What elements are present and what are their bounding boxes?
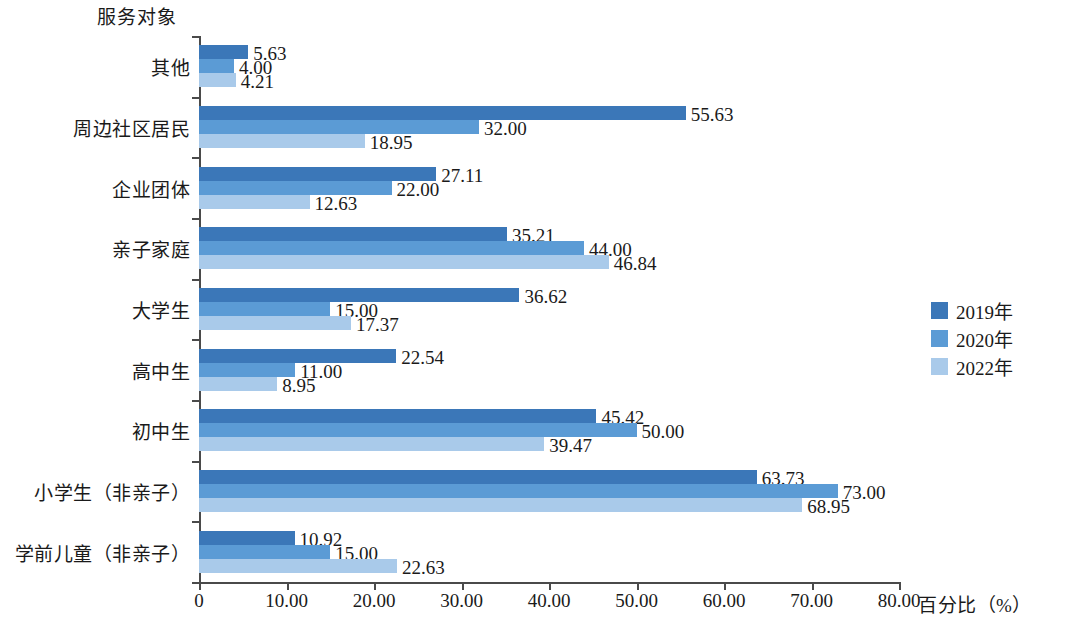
x-axis-tick xyxy=(637,582,639,590)
legend-swatch-icon xyxy=(931,358,948,375)
bar xyxy=(199,409,596,423)
y-axis-tick xyxy=(192,279,200,281)
bar-value-label: 50.00 xyxy=(642,422,685,441)
category-label: 初中生 xyxy=(132,417,191,444)
bar-value-label: 46.84 xyxy=(614,254,657,273)
bar xyxy=(199,363,295,377)
legend-item[interactable]: 2019年 xyxy=(931,296,1013,324)
bar xyxy=(199,227,507,241)
category-label: 大学生 xyxy=(132,296,191,323)
bar xyxy=(199,255,609,269)
legend-label: 2020年 xyxy=(956,325,1013,352)
bar xyxy=(199,106,686,120)
bar xyxy=(199,73,236,87)
x-axis-tick xyxy=(549,582,551,590)
legend-item[interactable]: 2020年 xyxy=(931,324,1013,352)
bar xyxy=(199,120,479,134)
x-axis-tick xyxy=(199,582,201,590)
y-axis-title: 服务对象 xyxy=(97,2,177,29)
legend-label: 2019年 xyxy=(956,297,1013,324)
chart-legend: 2019年2020年2022年 xyxy=(931,296,1013,380)
x-axis-tick xyxy=(724,582,726,590)
bar xyxy=(199,559,397,573)
bar-value-label: 18.95 xyxy=(370,133,413,152)
bar-value-label: 17.37 xyxy=(356,315,399,334)
bar xyxy=(199,437,544,451)
y-axis-tick xyxy=(192,157,200,159)
bar xyxy=(199,531,295,545)
x-axis-tick-label: 30.00 xyxy=(440,590,483,612)
x-axis-title: 百分比（%） xyxy=(918,590,1032,617)
category-label: 学前儿童（非亲子） xyxy=(15,539,191,566)
bar-value-label: 8.95 xyxy=(282,376,315,395)
legend-swatch-icon xyxy=(931,302,948,319)
bar xyxy=(199,241,584,255)
y-axis-tick xyxy=(192,97,200,99)
x-axis-tick xyxy=(287,582,289,590)
category-label: 高中生 xyxy=(132,357,191,384)
x-axis-tick xyxy=(462,582,464,590)
legend-swatch-icon xyxy=(931,330,948,347)
x-axis-tick-label: 0 xyxy=(194,590,204,612)
bar xyxy=(199,377,277,391)
bar-value-label: 27.11 xyxy=(441,166,483,185)
x-axis-tick-label: 70.00 xyxy=(790,590,833,612)
bar xyxy=(199,59,234,73)
x-axis-tick-label: 20.00 xyxy=(353,590,396,612)
y-axis-tick xyxy=(192,461,200,463)
bar xyxy=(199,545,330,559)
x-axis-tick xyxy=(899,582,901,590)
bar xyxy=(199,181,392,195)
legend-label: 2022年 xyxy=(956,353,1013,380)
x-axis-tick-label: 10.00 xyxy=(265,590,308,612)
bar xyxy=(199,195,310,209)
bar-value-label: 12.63 xyxy=(315,194,358,213)
category-label: 其他 xyxy=(151,53,190,80)
category-label: 企业团体 xyxy=(112,175,190,202)
bar-value-label: 22.54 xyxy=(401,348,444,367)
y-axis-tick xyxy=(192,218,200,220)
y-axis-tick xyxy=(192,521,200,523)
category-label: 亲子家庭 xyxy=(112,235,190,262)
bar xyxy=(199,316,351,330)
bar-value-label: 55.63 xyxy=(691,105,734,124)
legend-item[interactable]: 2022年 xyxy=(931,352,1013,380)
x-axis-tick-label: 40.00 xyxy=(528,590,571,612)
bar-value-label: 22.63 xyxy=(402,558,445,577)
bar xyxy=(199,134,365,148)
x-axis-tick-label: 60.00 xyxy=(703,590,746,612)
bar xyxy=(199,498,802,512)
bar xyxy=(199,484,838,498)
bar xyxy=(199,349,396,363)
x-axis-tick-label: 80.00 xyxy=(878,590,921,612)
category-label: 周边社区居民 xyxy=(73,114,190,141)
bar xyxy=(199,470,757,484)
category-label: 小学生（非亲子） xyxy=(34,478,190,505)
x-axis-tick xyxy=(374,582,376,590)
x-axis-tick xyxy=(812,582,814,590)
bar-chart: 服务对象 5.634.004.2155.6332.0018.9527.1122.… xyxy=(0,0,1067,639)
bar-value-label: 68.95 xyxy=(807,497,850,516)
x-axis-tick-label: 50.00 xyxy=(615,590,658,612)
y-axis-tick xyxy=(192,36,200,38)
y-axis-tick xyxy=(192,400,200,402)
bar xyxy=(199,302,330,316)
bar-value-label: 32.00 xyxy=(484,119,527,138)
bar-value-label: 36.62 xyxy=(524,287,567,306)
bar-value-label: 4.21 xyxy=(241,72,274,91)
bar-value-label: 22.00 xyxy=(397,180,440,199)
bar-value-label: 39.47 xyxy=(549,436,592,455)
y-axis-tick xyxy=(192,339,200,341)
